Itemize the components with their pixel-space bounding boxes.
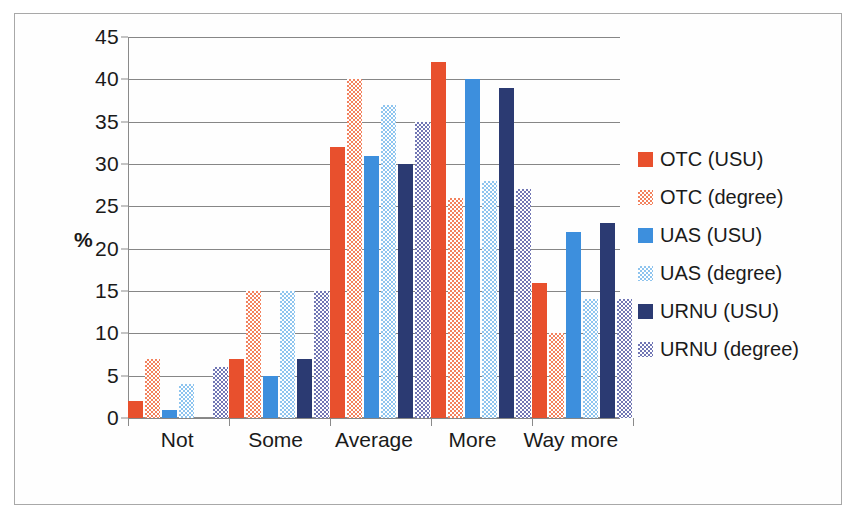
bar-urnu-usu-more[interactable]	[499, 88, 514, 418]
legend-label: OTC (USU)	[660, 148, 763, 171]
y-tick-mark	[121, 37, 128, 38]
legend-label: UAS (degree)	[660, 262, 782, 285]
legend-swatch-icon	[638, 228, 653, 243]
y-tick-mark	[121, 79, 128, 80]
bar-group-average	[330, 37, 431, 418]
bar-group-way-more	[532, 37, 633, 418]
bar-otc-usu-not[interactable]	[128, 401, 143, 418]
bar-urnu-degree-not[interactable]	[213, 367, 228, 418]
bar-otc-degree-more[interactable]	[448, 198, 463, 418]
plot-area: 454035302520151050	[128, 37, 620, 418]
y-tick-mark	[121, 164, 128, 165]
bar-uas-usu-not[interactable]	[162, 410, 177, 418]
legend-item-uas-degree[interactable]: UAS (degree)	[638, 254, 843, 292]
legend-item-urnu-degree[interactable]: URNU (degree)	[638, 330, 843, 368]
y-tick-mark	[121, 206, 128, 207]
legend-label: URNU (degree)	[660, 338, 799, 361]
bar-urnu-degree-more[interactable]	[516, 189, 531, 418]
gridline	[128, 418, 620, 419]
x-axis-label-more: More	[423, 428, 521, 452]
bar-otc-degree-way-more[interactable]	[549, 333, 564, 418]
x-tick-mark	[330, 418, 331, 426]
legend-label: UAS (USU)	[660, 224, 762, 247]
y-axis-title: %	[74, 228, 93, 252]
y-tick-label: 30	[95, 152, 119, 176]
x-axis-label-average: Average	[325, 428, 423, 452]
x-tick-mark	[532, 418, 533, 426]
bar-group-some	[229, 37, 330, 418]
y-tick-label: 15	[95, 279, 119, 303]
bar-otc-usu-some[interactable]	[229, 359, 244, 418]
y-tick-mark	[121, 121, 128, 122]
legend-label: URNU (USU)	[660, 300, 779, 323]
y-tick-label: 20	[95, 237, 119, 261]
bar-uas-usu-more[interactable]	[465, 79, 480, 418]
bar-uas-usu-average[interactable]	[364, 156, 379, 418]
bar-groups	[128, 37, 620, 418]
bar-uas-usu-some[interactable]	[263, 376, 278, 418]
y-tick-label: 35	[95, 110, 119, 134]
y-tick-label: 45	[95, 25, 119, 49]
x-axis-label-way-more: Way more	[522, 428, 620, 452]
y-tick-mark	[121, 375, 128, 376]
bar-uas-degree-average[interactable]	[381, 105, 396, 418]
y-tick-mark	[121, 333, 128, 334]
bar-otc-degree-average[interactable]	[347, 79, 362, 418]
legend-item-uas-usu[interactable]: UAS (USU)	[638, 216, 843, 254]
legend-swatch-icon	[638, 342, 653, 357]
bar-urnu-degree-some[interactable]	[314, 291, 329, 418]
bar-otc-degree-some[interactable]	[246, 291, 261, 418]
bar-urnu-usu-way-more[interactable]	[600, 223, 615, 418]
bar-urnu-usu-average[interactable]	[398, 164, 413, 418]
y-tick-mark	[121, 418, 128, 419]
y-tick-label: 0	[107, 406, 119, 430]
y-tick-label: 25	[95, 194, 119, 218]
legend-swatch-icon	[638, 152, 653, 167]
bar-uas-usu-way-more[interactable]	[566, 232, 581, 418]
x-tick-mark	[431, 418, 432, 426]
legend-item-otc-degree[interactable]: OTC (degree)	[638, 178, 843, 216]
y-tick-label: 5	[107, 364, 119, 388]
bar-otc-degree-not[interactable]	[145, 359, 160, 418]
x-axis-label-some: Some	[226, 428, 324, 452]
legend-label: OTC (degree)	[660, 186, 783, 209]
bar-uas-degree-way-more[interactable]	[583, 299, 598, 418]
bar-group-not	[128, 37, 229, 418]
legend-swatch-icon	[638, 266, 653, 281]
bar-urnu-degree-average[interactable]	[415, 122, 430, 418]
legend-item-otc-usu[interactable]: OTC (USU)	[638, 140, 843, 178]
chart-legend: OTC (USU)OTC (degree)UAS (USU)UAS (degre…	[638, 140, 843, 368]
y-tick-mark	[121, 248, 128, 249]
y-tick-label: 40	[95, 67, 119, 91]
bar-otc-usu-way-more[interactable]	[532, 283, 547, 418]
bar-urnu-usu-some[interactable]	[297, 359, 312, 418]
legend-swatch-icon	[638, 304, 653, 319]
bar-otc-usu-more[interactable]	[431, 62, 446, 418]
y-tick-mark	[121, 291, 128, 292]
bar-otc-usu-average[interactable]	[330, 147, 345, 418]
x-tick-mark	[229, 418, 230, 426]
x-tick-mark	[128, 418, 129, 426]
bar-uas-degree-some[interactable]	[280, 291, 295, 418]
bar-uas-degree-more[interactable]	[482, 181, 497, 418]
x-axis-label-not: Not	[128, 428, 226, 452]
bar-uas-degree-not[interactable]	[179, 384, 194, 418]
y-tick-label: 10	[95, 321, 119, 345]
legend-item-urnu-usu[interactable]: URNU (USU)	[638, 292, 843, 330]
x-tick-mark	[633, 418, 634, 426]
bar-group-more	[431, 37, 532, 418]
chart-figure: % 454035302520151050 NotSomeAverageMoreW…	[0, 0, 859, 522]
x-axis-labels: NotSomeAverageMoreWay more	[128, 428, 620, 452]
legend-swatch-icon	[638, 190, 653, 205]
bar-urnu-degree-way-more[interactable]	[617, 299, 632, 418]
